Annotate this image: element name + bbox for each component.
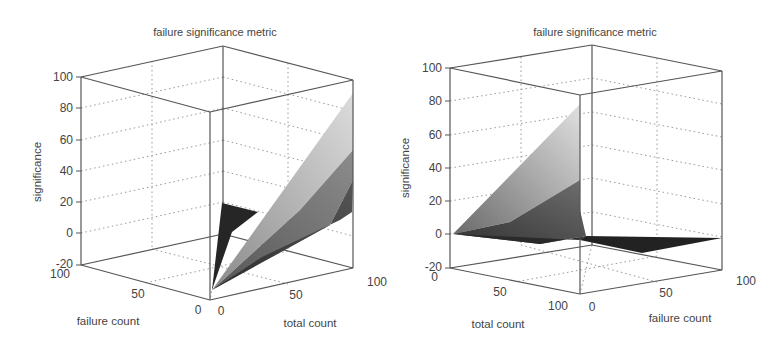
x-tick-label: 0 <box>218 304 225 318</box>
z-tick-label: 80 <box>60 101 74 115</box>
y-axis-label: failure count <box>77 315 140 327</box>
chart-right: failure significance metric 100 80 60 40… <box>390 0 780 344</box>
axis-box-front <box>450 68 722 294</box>
y-tick-label: 0 <box>589 300 596 314</box>
y-tick-label: 0 <box>195 303 202 317</box>
z-axis-label: significance <box>31 142 43 202</box>
x-tick-label: 100 <box>548 299 568 313</box>
z-tick-marks <box>445 68 450 268</box>
chart-title: failure significance metric <box>533 26 657 38</box>
surface <box>212 93 353 290</box>
z-tick-marks <box>76 77 81 265</box>
chart-right-plot: failure significance metric 100 80 60 40… <box>390 0 780 344</box>
z-tick-label: 40 <box>429 161 443 175</box>
chart-title: failure significance metric <box>153 26 277 38</box>
z-tick-label: 60 <box>429 128 443 142</box>
z-axis-label: significance <box>399 138 411 198</box>
surface <box>453 104 722 253</box>
y-tick-label: 50 <box>131 287 145 301</box>
y-tick-label: 100 <box>50 267 70 281</box>
y-axis-label: failure count <box>649 312 712 324</box>
x-tick-label: 50 <box>289 288 303 302</box>
x-tick-label: 0 <box>431 270 438 284</box>
x-axis-label: total count <box>471 318 525 330</box>
z-tick-label: 20 <box>60 195 74 209</box>
x-tick-label: 50 <box>493 285 507 299</box>
z-tick-label: 100 <box>53 70 73 84</box>
chart-left-plot: failure significance metric 100 80 60 40… <box>0 0 390 344</box>
z-tick-label: 0 <box>66 226 73 240</box>
z-tick-label: 80 <box>429 94 443 108</box>
y-tick-label: 100 <box>736 274 756 288</box>
z-tick-label: 60 <box>60 133 74 147</box>
x-tick-label: 100 <box>367 275 387 289</box>
x-axis-label: total count <box>283 317 337 329</box>
z-tick-label: 40 <box>60 164 74 178</box>
chart-left: failure significance metric 100 80 60 40… <box>0 0 390 344</box>
y-tick-label: 50 <box>659 286 673 300</box>
z-tick-label: 20 <box>429 194 443 208</box>
grid-lines <box>450 57 722 294</box>
z-tick-label: 0 <box>435 227 442 241</box>
z-tick-label: 100 <box>422 61 442 75</box>
